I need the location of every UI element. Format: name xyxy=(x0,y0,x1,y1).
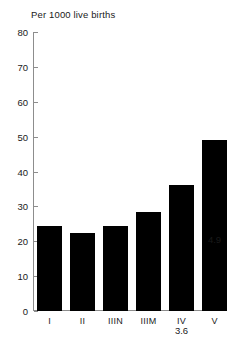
x-tick-label: I xyxy=(48,316,51,326)
y-tick-mark xyxy=(34,32,38,33)
x-tick-label: V xyxy=(211,316,217,326)
bar[interactable] xyxy=(136,212,161,311)
bar-group-iiin[interactable]: 2.5IIIN xyxy=(103,226,128,311)
bar[interactable] xyxy=(169,185,194,311)
y-tick-label: 40 xyxy=(17,166,28,177)
bar-group-ii[interactable]: 2.3II xyxy=(70,233,95,311)
bar-group-v[interactable]: 4.9V xyxy=(202,140,227,311)
y-tick-mark xyxy=(34,137,38,138)
y-tick-mark xyxy=(34,206,38,207)
y-tick-label: 80 xyxy=(17,27,28,38)
bar-group-iv[interactable]: 3.6IV xyxy=(169,185,194,311)
y-tick-label: 70 xyxy=(17,61,28,72)
x-tick-label: IV xyxy=(177,316,186,326)
bar[interactable] xyxy=(37,226,62,311)
y-tick-label: 50 xyxy=(17,131,28,142)
plot-area: 80706050403020100 2.5I2.3II2.5IIIN2.9III… xyxy=(33,32,218,311)
bar-chart-figure: Per 1000 live births 80706050403020100 2… xyxy=(0,0,231,339)
y-tick-label: 0 xyxy=(23,306,28,317)
y-tick-label: 20 xyxy=(17,236,28,247)
y-tick-label: 30 xyxy=(17,201,28,212)
bar-group-iiim[interactable]: 2.9IIIM xyxy=(136,212,161,311)
x-tick-label: II xyxy=(80,316,85,326)
y-tick-mark xyxy=(34,67,38,68)
bar[interactable] xyxy=(70,233,95,311)
bar-value-label: 3.6 xyxy=(175,325,188,336)
chart-title: Per 1000 live births xyxy=(31,9,115,20)
x-tick-label: IIIN xyxy=(108,316,123,326)
bar-group-i[interactable]: 2.5I xyxy=(37,226,62,311)
bar-value-label: 4.9 xyxy=(208,234,221,245)
y-tick-label: 60 xyxy=(17,96,28,107)
x-tick-label: IIIM xyxy=(141,316,157,326)
y-tick-label: 10 xyxy=(17,271,28,282)
y-tick-mark xyxy=(34,311,38,312)
bar[interactable] xyxy=(202,140,227,311)
bar[interactable] xyxy=(103,226,128,311)
y-tick-mark xyxy=(34,102,38,103)
y-tick-mark xyxy=(34,172,38,173)
